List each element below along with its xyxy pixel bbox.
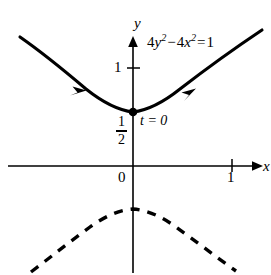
upper-branch-curve: [20, 30, 262, 112]
x-axis-arrowhead: [252, 161, 263, 171]
vertex-value-fraction: 1 2: [116, 115, 127, 147]
equation-label: 4y2−4x2=1: [147, 33, 214, 50]
x-axis-label: x: [263, 159, 270, 174]
vertex-fraction-numerator: 1: [117, 115, 126, 129]
vertex-point-marker: [129, 108, 138, 117]
parameter-label: t = 0: [140, 114, 167, 128]
figure-canvas: y x 1 0 1 1 2 t = 0 4y2−4x2=1: [0, 0, 271, 275]
vertex-fraction-denominator: 2: [117, 133, 126, 147]
equation-minus-sign: −: [166, 34, 176, 50]
right-branch-direction-arrow: [182, 89, 197, 102]
equation-equals-sign: =: [196, 34, 206, 50]
origin-label: 0: [118, 170, 126, 185]
equation-right-hand-side: 1: [206, 34, 214, 50]
x-axis-tick-label-1: 1: [227, 170, 235, 185]
x-axis: [8, 159, 263, 172]
y-axis: [127, 36, 140, 273]
figure-graphic: [0, 0, 271, 275]
y-axis-tick-label-1: 1: [114, 60, 122, 75]
y-axis-label: y: [134, 16, 141, 31]
y-axis-arrowhead: [128, 36, 138, 47]
equation-var-x: x: [184, 34, 191, 50]
equation-coef-y: 4: [147, 34, 155, 50]
